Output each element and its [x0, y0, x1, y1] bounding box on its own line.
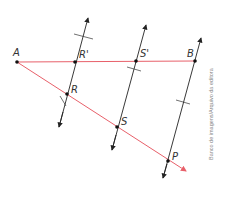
point-a	[15, 60, 19, 64]
parallel-line-2	[112, 25, 146, 150]
label-b: B	[187, 48, 194, 59]
point-s	[115, 125, 119, 129]
parallel-line-3-bottom-arrow	[163, 164, 167, 178]
label-s: S	[121, 116, 128, 127]
compass-mark-icon	[60, 96, 66, 106]
segment-ab	[17, 61, 195, 62]
label-s-prime: S'	[140, 48, 149, 59]
parallel-line-2-bottom-arrow	[112, 135, 116, 150]
image-credit: Banco de imagens/Arquivo da editora	[208, 67, 214, 160]
parallel-line-3	[163, 38, 201, 178]
parallel-line-1-bottom-arrow	[59, 112, 63, 127]
point-b	[193, 59, 197, 63]
parallel-line-1	[59, 18, 88, 127]
point-s-prime	[134, 59, 138, 63]
label-a: A	[12, 47, 20, 58]
ray-ap	[17, 62, 186, 171]
label-r: R	[71, 84, 78, 95]
point-p	[166, 159, 170, 163]
label-r-prime: R'	[79, 49, 89, 60]
label-p: P	[172, 151, 179, 162]
point-r-prime	[73, 60, 77, 64]
point-r	[65, 92, 69, 96]
geometry-diagram: A R' S' B R S P Banco de imagens/Arquivo…	[0, 0, 227, 197]
